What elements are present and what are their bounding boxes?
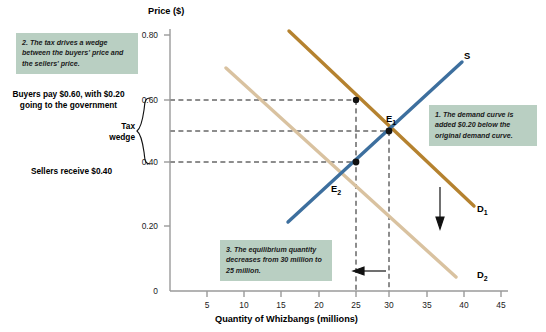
demand1-label-base: D bbox=[477, 203, 484, 214]
equilibrium-1-label: E1 bbox=[386, 113, 396, 126]
x-tick-label-45: 45 bbox=[490, 300, 512, 310]
x-tick-label-40: 40 bbox=[453, 300, 475, 310]
demand2-label-base: D bbox=[477, 269, 484, 280]
demand1-curve-label: D1 bbox=[477, 203, 488, 216]
x-tick-label-25: 25 bbox=[345, 300, 367, 310]
point-buyers-price bbox=[353, 97, 359, 103]
x-axis-title: Quantity of Whizbangs (millions) bbox=[215, 314, 358, 324]
point-e1 bbox=[386, 128, 393, 135]
callout-box-3: 3. The equilibrium quantity decreases fr… bbox=[220, 240, 332, 281]
callout-box-2: 2. The tax drives a wedge between the bu… bbox=[16, 33, 138, 74]
callout-box-1: 1. The demand curve is added $0.20 below… bbox=[429, 105, 537, 146]
tax-wedge-label-line1: Tax bbox=[121, 121, 135, 131]
tax-wedge-bracket bbox=[137, 98, 150, 164]
tax-wedge-label-line2: wedge bbox=[109, 132, 135, 142]
x-tick-label-30: 30 bbox=[378, 300, 400, 310]
figure-canvas: Price ($) 0.80 0.60 0.40 0.20 0 5 10 15 … bbox=[0, 0, 546, 332]
quantity-decrease-arrow bbox=[353, 267, 386, 275]
demand-shift-arrow-head bbox=[436, 217, 444, 229]
point-e2 bbox=[353, 159, 360, 166]
demand2-curve-label: D2 bbox=[477, 269, 488, 282]
x-tick-label-20: 20 bbox=[308, 300, 330, 310]
x-axis bbox=[170, 291, 508, 297]
y-axis bbox=[164, 29, 170, 291]
sellers-price-label: Sellers receive $0.40 bbox=[8, 166, 135, 177]
demand1-label-sub: 1 bbox=[484, 209, 488, 216]
supply-curve-label: S bbox=[464, 50, 470, 61]
y-tick-label-020: 0.20 bbox=[128, 221, 158, 231]
x-tick-label-5: 5 bbox=[196, 300, 218, 310]
eq2-label-sub: 2 bbox=[337, 189, 341, 196]
equilibrium-2-label: E2 bbox=[331, 183, 341, 196]
x-tick-label-35: 35 bbox=[416, 300, 438, 310]
y-tick-label-0: 0 bbox=[128, 286, 158, 296]
x-tick-label-10: 10 bbox=[233, 300, 255, 310]
tax-wedge-label: Tax wedge bbox=[60, 121, 135, 143]
demand2-label-sub: 2 bbox=[484, 275, 488, 282]
x-tick-label-15: 15 bbox=[270, 300, 292, 310]
y-axis-title: Price ($) bbox=[148, 6, 184, 16]
buyers-price-label: Buyers pay $0.60, with $0.20 going to th… bbox=[2, 89, 135, 111]
demand-shift-arrow bbox=[436, 187, 444, 229]
quantity-decrease-arrow-head bbox=[353, 267, 364, 275]
eq1-label-sub: 1 bbox=[392, 119, 396, 126]
